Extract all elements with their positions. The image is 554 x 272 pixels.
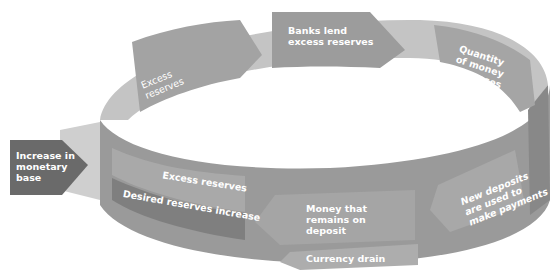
money-creation-diagram: Increase in monetary base Excess reserve… [0,0,554,272]
label-line: remains on [306,214,367,225]
entry-line-2: monetary [16,161,75,172]
money-remains-label: Money that remains on deposit [306,203,367,236]
entry-line-3: base [16,172,75,183]
label-line: Banks lend [288,25,373,36]
label-line: excess reserves [288,36,373,47]
label-line: deposit [306,225,367,236]
label-line: Currency drain [306,253,385,264]
label-line: Money that [306,203,367,214]
banks-lend-label: Banks lend excess reserves [288,25,373,47]
currency-drain-label: Currency drain [306,253,385,264]
diagram-canvas [0,0,554,272]
entry-label: Increase in monetary base [16,150,75,183]
entry-line-1: Increase in [16,150,75,161]
